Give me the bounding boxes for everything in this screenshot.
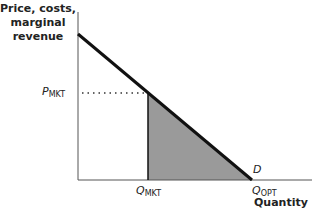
q-mkt-label: QMKT <box>136 184 161 198</box>
price-mkt-label: PMKT <box>42 85 65 99</box>
demand-label: D <box>253 163 261 176</box>
x-axis-label: Quantity <box>254 196 308 209</box>
diagram-canvas <box>0 0 332 220</box>
